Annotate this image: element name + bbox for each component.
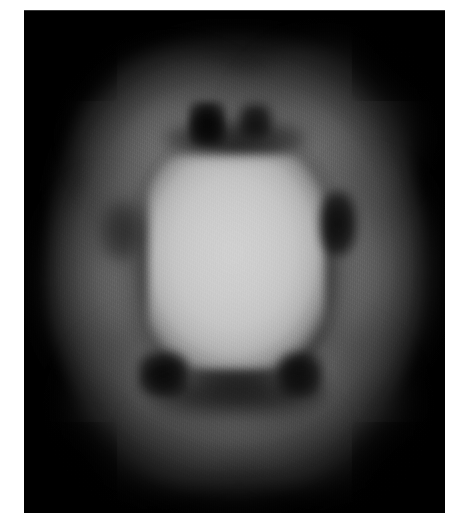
dark-spot-inferior-left — [138, 352, 189, 397]
core-dark-annulus — [133, 136, 344, 398]
corner-mask-top-left — [24, 10, 117, 101]
corner-mask-bottom-right — [352, 422, 445, 513]
ring-highlight-lower-left — [66, 322, 243, 493]
edge-vignette — [24, 10, 445, 513]
corner-mask-top-right — [352, 10, 445, 101]
ring-highlight-upper-left — [75, 50, 269, 221]
ring-highlight-upper-right — [235, 40, 420, 221]
dark-spot-inferior-right — [277, 352, 323, 397]
page-root — [0, 0, 456, 531]
ring-highlight-right — [302, 161, 437, 382]
bright-core-glow — [138, 141, 336, 382]
scan-noise-overlay — [24, 10, 445, 513]
scanline-texture-overlay — [24, 10, 445, 513]
dark-spot-superior-band — [163, 121, 306, 156]
tissue-uptake-ring — [70, 60, 398, 462]
dark-spot-inferior-band — [150, 375, 327, 415]
outer-tissue-halo — [49, 30, 419, 493]
ring-highlight-lower-right — [235, 322, 412, 493]
corner-mask-bottom-left — [24, 422, 117, 513]
ring-highlight-bottom — [133, 382, 335, 503]
dark-spot-superior-left — [188, 101, 226, 146]
dark-spot-septal-left — [100, 201, 142, 261]
dark-spot-superior-right — [239, 103, 273, 138]
frame-top-hairline — [24, 10, 445, 11]
ring-highlight-left — [41, 181, 167, 382]
scan-image-frame — [24, 10, 445, 513]
dark-spot-lateral-right — [319, 191, 357, 256]
bright-core — [148, 153, 325, 369]
scan-render-layers — [24, 10, 445, 513]
